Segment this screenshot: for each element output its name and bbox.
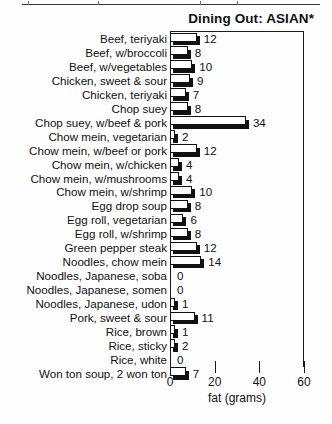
- bar-value-label: 4: [186, 172, 192, 186]
- bar: [170, 297, 179, 311]
- bar-value-label: 2: [182, 130, 188, 144]
- bar: [170, 227, 192, 241]
- bar-body: [170, 46, 188, 55]
- category-label: Chow mein, w/beef or pork: [0, 144, 167, 158]
- bar-row: Chicken, teriyaki7: [0, 88, 332, 102]
- bar-body: [170, 74, 190, 83]
- bar-value-label: 4: [186, 158, 192, 172]
- bar-value-label: 6: [190, 213, 196, 227]
- bar-row: Pork, sweet & sour11: [0, 311, 332, 325]
- bar: [170, 88, 190, 102]
- bar-row: Noodles, Japanese, somen0: [0, 283, 332, 297]
- bar-body: [170, 186, 192, 195]
- bar-row: Egg roll, vegetarian6: [0, 213, 332, 227]
- bar: [170, 158, 183, 172]
- category-label: Chow mein, w/shrimp: [0, 185, 167, 199]
- bar: [170, 339, 179, 353]
- x-axis-tick-label: 0: [167, 375, 174, 389]
- bar: [170, 325, 179, 339]
- bar: [170, 311, 199, 325]
- bar: [170, 255, 205, 269]
- bar-row: Rice, brown1: [0, 325, 332, 339]
- category-label: Noodles, Japanese, soba: [0, 269, 167, 283]
- category-label: Chicken, teriyaki: [0, 88, 167, 102]
- bar-row: Chow mein, w/mushrooms4: [0, 172, 332, 186]
- bar-body: [170, 242, 197, 251]
- bar-value-label: 7: [193, 367, 199, 381]
- bar-row: Chop suey8: [0, 102, 332, 116]
- bar: [170, 74, 194, 88]
- bar-row: Chow mein, w/beef or pork12: [0, 144, 332, 158]
- bar-body: [170, 228, 188, 237]
- category-label: Green pepper steak: [0, 241, 167, 255]
- category-label: Egg roll, vegetarian: [0, 213, 167, 227]
- bar: [170, 172, 183, 186]
- bar: [170, 144, 201, 158]
- x-axis-tick-label: 20: [208, 375, 221, 389]
- x-axis-tick-label: 60: [297, 375, 310, 389]
- category-label: Chicken, sweet & sour: [0, 74, 167, 88]
- bar-row: Chow mein, vegetarian2: [0, 130, 332, 144]
- bar-value-label: 0: [177, 269, 183, 283]
- bar-row: Noodles, Japanese, udon1: [0, 297, 332, 311]
- bar: [170, 102, 192, 116]
- category-label: Chop suey, w/beef & pork: [0, 116, 167, 130]
- bar-body: [170, 144, 197, 153]
- cropped-table-bottom-rule: [22, 4, 320, 5]
- bar-row: Chicken, sweet & sour9: [0, 74, 332, 88]
- bar-value-label: 0: [177, 283, 183, 297]
- bar-value-label: 8: [195, 102, 201, 116]
- bar-row: Egg roll, w/shrimp8: [0, 227, 332, 241]
- bar-value-label: 1: [182, 325, 188, 339]
- bar-body: [170, 200, 188, 209]
- category-label: Egg roll, w/shrimp: [0, 227, 167, 241]
- bar-value-label: 8: [195, 46, 201, 60]
- category-label: Beef, w/vegetables: [0, 60, 167, 74]
- bar-value-label: 8: [195, 227, 201, 241]
- bar-row: Noodles, chow mein14: [0, 255, 332, 269]
- x-axis-tick: [170, 361, 171, 373]
- bar: [170, 32, 201, 46]
- x-axis: 0204060: [170, 367, 304, 368]
- bar-value-label: 14: [208, 255, 221, 269]
- bar-body: [170, 33, 197, 42]
- bar-value-label: 34: [253, 116, 266, 130]
- bar-body: [170, 256, 201, 265]
- category-label: Egg drop soup: [0, 199, 167, 213]
- bar-body: [170, 116, 246, 125]
- bar-body: [170, 339, 175, 348]
- bar: [170, 199, 192, 213]
- x-axis-tick: [304, 361, 305, 373]
- category-label: Rice, white: [0, 353, 167, 367]
- category-label: Chow mein, w/chicken: [0, 158, 167, 172]
- x-axis-tick: [259, 361, 260, 373]
- bar-body: [170, 214, 183, 223]
- bar-row: Chow mein, w/shrimp10: [0, 185, 332, 199]
- category-label: Chop suey: [0, 102, 167, 116]
- bar-value-label: 10: [199, 185, 212, 199]
- category-label: Rice, sticky: [0, 339, 167, 353]
- category-label: Beef, teriyaki: [0, 32, 167, 46]
- bar: [170, 116, 250, 130]
- bar-row: Beef, w/broccoli8: [0, 46, 332, 60]
- bar-value-label: 9: [197, 74, 203, 88]
- category-label: Chow mein, w/mushrooms: [0, 172, 167, 186]
- bar-body: [170, 312, 195, 321]
- bar-row: Chow mein, w/chicken4: [0, 158, 332, 172]
- bar-row: Egg drop soup8: [0, 199, 332, 213]
- bar-value-label: 12: [204, 144, 217, 158]
- x-axis-tick-label: 40: [253, 375, 266, 389]
- bar-body: [170, 172, 179, 181]
- category-label: Noodles, Japanese, somen: [0, 283, 167, 297]
- bar-body: [170, 60, 192, 69]
- category-label: Noodles, chow mein: [0, 255, 167, 269]
- bar-body: [170, 325, 175, 334]
- bar-body: [170, 102, 188, 111]
- bar-body: [170, 158, 179, 167]
- bar-row: Green pepper steak12: [0, 241, 332, 255]
- category-label: Chow mein, vegetarian: [0, 130, 167, 144]
- bar-value-label: 12: [204, 241, 217, 255]
- x-axis-title: fat (grams): [170, 391, 304, 405]
- bar-row: Chop suey, w/beef & pork34: [0, 116, 332, 130]
- category-label: Beef, w/broccoli: [0, 46, 167, 60]
